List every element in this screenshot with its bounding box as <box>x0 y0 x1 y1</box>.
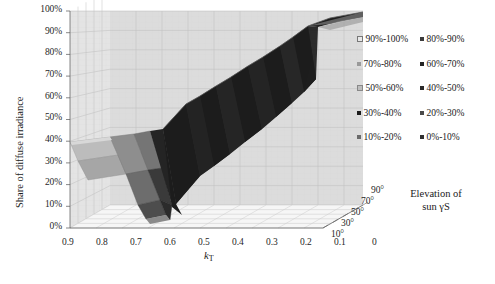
z-tick-10: 10° <box>331 229 344 239</box>
y-tick-70: 70% <box>24 69 62 79</box>
z-axis-title-line2: sun γS <box>422 201 450 212</box>
y-tick-50: 50% <box>24 112 62 122</box>
x-axis-title-sub: T <box>209 254 214 263</box>
legend-swatch-90-100 <box>357 36 363 42</box>
back-wall-left <box>70 0 110 228</box>
z-tick-90: 90° <box>371 185 384 195</box>
legend-label-90-100: 90%-100% <box>366 34 409 44</box>
x-axis-title: kT <box>204 250 214 263</box>
x-tick-0: 0 <box>372 237 377 247</box>
legend-label-40-50: 40%-50% <box>427 83 465 93</box>
x-tick-0.3: 0.3 <box>266 237 278 247</box>
y-tick-80: 80% <box>24 47 62 57</box>
legend-swatch-80-90 <box>420 37 424 41</box>
legend-label-70-80: 70%-80% <box>364 59 402 69</box>
z-tick-30: 30° <box>341 218 354 228</box>
legend-label-30-40: 30%-40% <box>364 108 402 118</box>
legend-label-80-90: 80%-90% <box>427 34 465 44</box>
legend-swatch-20-30 <box>420 111 424 115</box>
z-tick-50: 50° <box>351 207 364 217</box>
legend-label-20-30: 20%-30% <box>427 108 465 118</box>
x-tick-0.9: 0.9 <box>62 237 74 247</box>
x-tick-0.5: 0.5 <box>198 237 210 247</box>
z-axis-title-line1: Elevation of <box>410 188 462 199</box>
legend-item-0-10[interactable]: 0%-10% <box>420 132 490 142</box>
legend-item-80-90[interactable]: 80%-90% <box>420 34 490 44</box>
legend-item-70-80[interactable]: 70%-80% <box>357 59 420 69</box>
y-tick-10: 10% <box>24 199 62 209</box>
legend-item-60-70[interactable]: 60%-70% <box>420 59 490 69</box>
z-axis-title: Elevation of sun γS <box>386 188 486 213</box>
legend-item-20-30[interactable]: 20%-30% <box>420 108 490 118</box>
legend-swatch-70-80 <box>357 62 361 66</box>
y-axis-title: Share of diffuse irradiance <box>14 97 25 208</box>
legend-label-60-70: 60%-70% <box>427 59 465 69</box>
legend-item-40-50[interactable]: 40%-50% <box>420 83 490 93</box>
legend-swatch-0-10 <box>420 135 424 139</box>
z-tick-70: 70° <box>361 196 374 206</box>
x-tick-0.7: 0.7 <box>130 237 142 247</box>
x-tick-0.6: 0.6 <box>164 237 176 247</box>
legend-item-90-100[interactable]: 90%-100% <box>357 34 420 44</box>
chart-floor <box>70 205 363 228</box>
legend-swatch-10-20 <box>357 135 361 139</box>
chart-legend: 90%-100% 80%-90% 70%-80% 60%-70% 50%-60%… <box>357 34 495 157</box>
legend-item-30-40[interactable]: 30%-40% <box>357 108 420 118</box>
chart-3d-surface-diffuse-irradiance: 100% 90% 80% 70% 60% 50% 40% 30% 20% 10%… <box>0 0 495 284</box>
y-tick-100: 100% <box>24 4 62 14</box>
legend-swatch-40-50 <box>420 86 424 90</box>
x-tick-0.4: 0.4 <box>232 237 244 247</box>
y-tick-60: 60% <box>24 91 62 101</box>
y-tick-30: 30% <box>24 156 62 166</box>
legend-item-10-20[interactable]: 10%-20% <box>357 132 420 142</box>
y-tick-20: 20% <box>24 177 62 187</box>
legend-item-50-60[interactable]: 50%-60% <box>357 83 420 93</box>
y-tick-0: 0% <box>24 221 62 231</box>
y-axis-ticks <box>66 11 70 228</box>
legend-label-10-20: 10%-20% <box>364 132 402 142</box>
legend-swatch-60-70 <box>420 62 424 66</box>
x-tick-0.2: 0.2 <box>300 237 312 247</box>
legend-label-50-60: 50%-60% <box>366 83 404 93</box>
legend-label-0-10: 0%-10% <box>427 132 460 142</box>
legend-swatch-50-60 <box>357 85 363 91</box>
y-tick-40: 40% <box>24 134 62 144</box>
legend-swatch-30-40 <box>357 111 361 115</box>
y-tick-90: 90% <box>24 26 62 36</box>
x-tick-0.8: 0.8 <box>96 237 108 247</box>
